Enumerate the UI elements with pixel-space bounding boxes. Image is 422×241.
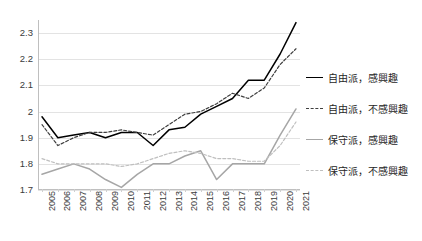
x-tick-mark xyxy=(106,189,107,192)
x-tick-mark xyxy=(248,189,249,192)
x-tick-label: 2013 xyxy=(174,191,184,235)
x-tick-label: 2020 xyxy=(285,191,295,235)
y-tick-label: 1.9 xyxy=(4,132,33,143)
line-chart: 1.71.81.922.12.22.3 20052006200720082009… xyxy=(0,0,422,241)
legend-line-icon xyxy=(306,108,323,109)
x-tick-mark xyxy=(296,189,297,192)
y-tick-label: 2 xyxy=(4,106,33,117)
series-line xyxy=(42,49,296,146)
x-tick-label: 2005 xyxy=(47,191,57,235)
legend-swatch-solid-gray xyxy=(306,135,323,145)
x-tick-label: 2010 xyxy=(126,191,136,235)
y-tick-label: 1.8 xyxy=(4,158,33,169)
legend-line-icon xyxy=(306,170,323,171)
x-tick-label: 2008 xyxy=(94,191,104,235)
legend-swatch-solid-dark xyxy=(306,73,323,83)
legend-label: 自由派，不感興趣 xyxy=(328,101,408,116)
legend-swatch-dash-gray xyxy=(306,166,323,176)
legend-label: 自由派，感興趣 xyxy=(328,70,398,85)
y-tick-label: 2.1 xyxy=(4,79,33,90)
legend-item[interactable]: 自由派，感興趣 xyxy=(306,62,422,93)
x-axis-tick-labels: 2005200620072008200920102011201220132014… xyxy=(38,191,300,241)
x-tick-mark xyxy=(153,189,154,192)
y-tick-label: 2.3 xyxy=(4,27,33,38)
x-tick-mark xyxy=(169,189,170,192)
series-container xyxy=(38,20,300,190)
x-tick-label: 2014 xyxy=(189,191,199,235)
series-line xyxy=(42,23,296,146)
series-line xyxy=(42,122,296,166)
legend-item[interactable]: 保守派，不感興趣 xyxy=(306,155,422,186)
y-tick-label: 2.2 xyxy=(4,53,33,64)
x-tick-mark xyxy=(42,189,43,192)
chart-legend: 自由派，感興趣自由派，不感興趣保守派，感興趣保守派，不感興趣 xyxy=(306,62,422,186)
x-tick-label: 2016 xyxy=(221,191,231,235)
x-tick-label: 2018 xyxy=(253,191,263,235)
x-tick-label: 2015 xyxy=(205,191,215,235)
legend-swatch-dash-dark xyxy=(306,104,323,114)
x-tick-label: 2011 xyxy=(142,191,152,235)
x-tick-mark xyxy=(233,189,234,192)
x-tick-mark xyxy=(74,189,75,192)
x-tick-mark xyxy=(90,189,91,192)
x-tick-label: 2012 xyxy=(158,191,168,235)
y-tick-label: 1.7 xyxy=(4,184,33,195)
legend-item[interactable]: 保守派，感興趣 xyxy=(306,124,422,155)
x-tick-mark xyxy=(217,189,218,192)
legend-line-icon xyxy=(306,77,323,79)
x-tick-label: 2017 xyxy=(237,191,247,235)
legend-label: 保守派，感興趣 xyxy=(328,132,398,147)
legend-item[interactable]: 自由派，不感興趣 xyxy=(306,93,422,124)
x-tick-label: 2006 xyxy=(62,191,72,235)
x-tick-mark xyxy=(137,189,138,192)
x-tick-mark xyxy=(58,189,59,192)
legend-line-icon xyxy=(306,139,323,141)
x-tick-mark xyxy=(121,189,122,192)
x-tick-mark xyxy=(264,189,265,192)
x-tick-label: 2007 xyxy=(78,191,88,235)
x-tick-mark xyxy=(201,189,202,192)
legend-label: 保守派，不感興趣 xyxy=(328,163,408,178)
x-tick-label: 2019 xyxy=(269,191,279,235)
x-tick-mark xyxy=(280,189,281,192)
x-tick-label: 2021 xyxy=(301,191,311,235)
x-tick-label: 2009 xyxy=(110,191,120,235)
series-line xyxy=(42,109,296,187)
x-tick-mark xyxy=(185,189,186,192)
